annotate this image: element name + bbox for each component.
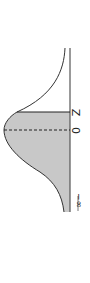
normal-curve-diagram	[0, 0, 90, 283]
mean-label: 0	[70, 127, 81, 134]
z-label: Z	[70, 109, 81, 117]
neg-inf-label: −∞	[74, 193, 83, 208]
